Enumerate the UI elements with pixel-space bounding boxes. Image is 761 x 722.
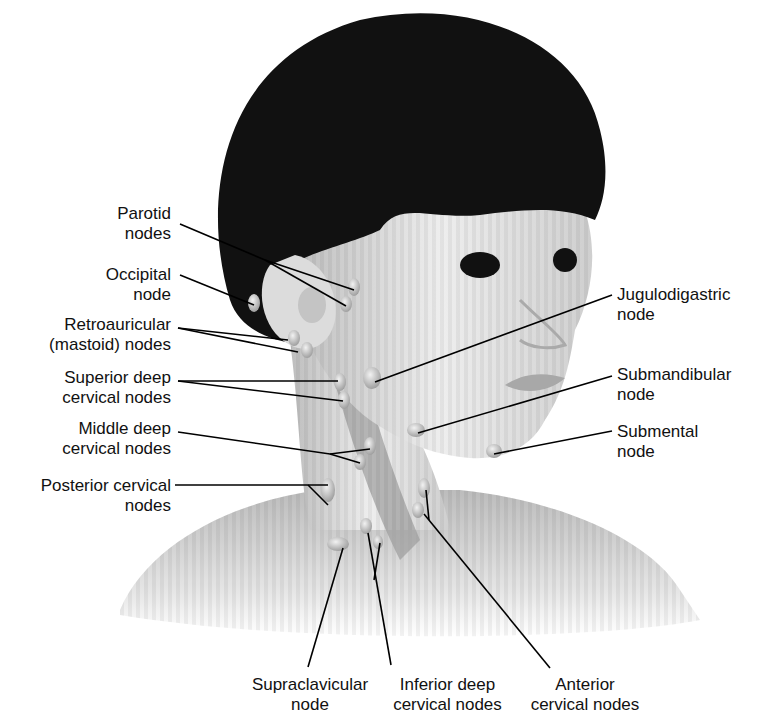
retroauricular-node xyxy=(288,330,300,346)
left-eye xyxy=(460,252,500,278)
label-inferior-deep-cervical-nodes: Inferior deep cervical nodes xyxy=(380,675,515,715)
anterior-cervical-node xyxy=(418,478,430,498)
submandibular-node xyxy=(407,423,425,437)
label-posterior-cervical-nodes: Posterior cervical nodes xyxy=(41,476,171,516)
parotid-node xyxy=(348,278,360,296)
middle-deep-cervical-node xyxy=(364,437,376,455)
label-supraclavicular-node: Supraclavicular node xyxy=(225,675,395,715)
label-jugulodigastric-node: Jugulodigastric node xyxy=(617,285,730,325)
label-submandibular-node: Submandibular node xyxy=(617,365,731,405)
inferior-deep-cervical-node xyxy=(360,518,372,534)
label-retroauricular-nodes: Retroauricular (mastoid) nodes xyxy=(49,315,171,355)
posterior-cervical-node xyxy=(321,478,335,502)
anatomy-illustration xyxy=(0,0,761,722)
right-eye xyxy=(553,248,577,272)
label-submental-node: Submental node xyxy=(617,422,698,462)
inferior-deep-cervical-node xyxy=(373,535,383,549)
label-anterior-cervical-nodes: Anterior cervical nodes xyxy=(520,675,650,715)
label-middle-deep-cervical-nodes: Middle deep cervical nodes xyxy=(62,419,171,459)
label-superior-deep-cervical-nodes: Superior deep cervical nodes xyxy=(62,368,171,408)
retroauricular-node xyxy=(301,342,313,358)
superior-deep-cervical-node xyxy=(334,373,346,391)
label-parotid-nodes: Parotid nodes xyxy=(117,204,171,244)
supraclavicular-node xyxy=(327,537,349,551)
submental-node xyxy=(486,444,502,458)
anterior-cervical-node xyxy=(412,502,424,518)
label-occipital-node: Occipital node xyxy=(106,265,171,305)
jugulodigastric-node xyxy=(363,367,381,389)
